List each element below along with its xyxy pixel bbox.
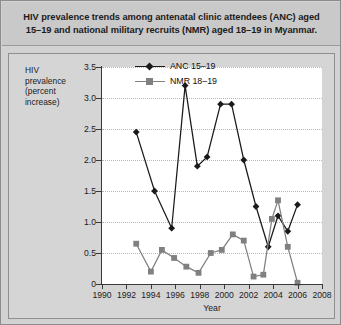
y-tick-label: 0 (70, 279, 96, 289)
y-tick-mark (96, 160, 102, 161)
data-point-marker (133, 129, 140, 136)
data-point-marker (217, 101, 224, 108)
data-point-marker (251, 274, 257, 280)
y-tick-mark (96, 67, 102, 68)
x-tick-label: 2000 (215, 290, 234, 300)
data-point-marker (151, 188, 158, 195)
plot-area (102, 67, 322, 284)
data-point-marker (171, 255, 177, 261)
data-point-marker (269, 216, 275, 222)
y-tick-mark (96, 222, 102, 223)
x-tick-mark (175, 284, 176, 289)
x-tick-label: 1998 (190, 290, 209, 300)
data-point-marker (294, 201, 301, 208)
y-tick-label: 0.5 (70, 248, 96, 258)
x-tick-mark (200, 284, 201, 289)
data-point-marker (196, 270, 202, 276)
legend-label: NMR 18–19 (170, 76, 217, 86)
y-tick-mark (96, 98, 102, 99)
chart-legend: ANC 15–19NMR 18–19 (135, 60, 217, 87)
legend-swatch (135, 61, 165, 71)
data-point-marker (159, 247, 165, 253)
y-tick-label: 1.5 (70, 186, 96, 196)
chart-panel: HIV prevalence (percent increase) 00.51.… (8, 53, 335, 319)
y-tick-label: 3.5 (70, 62, 96, 72)
diamond-marker-icon (145, 62, 153, 70)
data-point-marker (253, 203, 260, 210)
x-tick-label: 2002 (239, 290, 258, 300)
figure-container: HIV prevalence trends among antenatal cl… (0, 0, 341, 325)
x-tick-label: 1994 (141, 290, 160, 300)
data-point-marker (275, 197, 281, 203)
legend-label: ANC 15–19 (170, 61, 215, 71)
x-tick-mark (322, 284, 323, 289)
data-point-marker (230, 232, 236, 238)
y-tick-mark (96, 129, 102, 130)
data-series-layer (102, 67, 322, 284)
data-point-marker (148, 269, 154, 275)
data-point-marker (240, 157, 247, 164)
y-tick-label: 3.0 (70, 93, 96, 103)
legend-item-anc[interactable]: ANC 15–19 (135, 60, 217, 72)
x-tick-label: 2006 (288, 290, 307, 300)
data-point-marker (219, 247, 225, 253)
data-point-marker (168, 225, 175, 232)
data-point-marker (133, 241, 139, 247)
x-tick-mark (102, 284, 103, 289)
data-point-marker (183, 264, 189, 270)
y-tick-label: 2.0 (70, 155, 96, 165)
chart-title-banner: HIV prevalence trends among antenatal cl… (2, 2, 341, 46)
x-tick-label: 2004 (264, 290, 283, 300)
x-tick-mark (224, 284, 225, 289)
data-point-marker (228, 101, 235, 108)
y-tick-label: 2.5 (70, 124, 96, 134)
y-tick-mark (96, 253, 102, 254)
legend-item-nmr[interactable]: NMR 18–19 (135, 75, 217, 87)
x-tick-label: 1992 (117, 290, 136, 300)
data-point-marker (241, 238, 247, 244)
y-tick-label: 1.0 (70, 217, 96, 227)
data-point-marker (285, 244, 291, 250)
legend-swatch (135, 76, 165, 86)
x-tick-label: 2008 (312, 290, 331, 300)
x-axis-line (101, 284, 322, 285)
x-tick-mark (151, 284, 152, 289)
series-line (136, 200, 297, 282)
x-tick-mark (249, 284, 250, 289)
data-point-marker (208, 250, 214, 256)
y-tick-mark (96, 191, 102, 192)
x-tick-mark (298, 284, 299, 289)
series-line (136, 86, 297, 247)
page-title: HIV prevalence trends among antenatal cl… (2, 11, 341, 36)
x-tick-label: 1990 (92, 290, 111, 300)
square-marker-icon (146, 78, 153, 85)
data-point-marker (260, 272, 266, 278)
x-tick-label: 1996 (166, 290, 185, 300)
x-axis-label: Year (102, 303, 322, 313)
x-tick-mark (126, 284, 127, 289)
x-tick-mark (273, 284, 274, 289)
